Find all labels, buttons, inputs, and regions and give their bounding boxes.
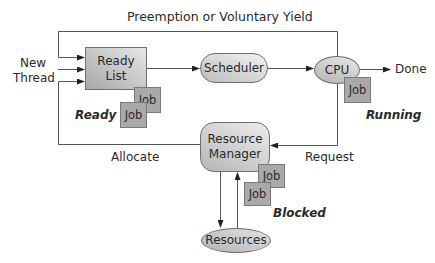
request-label: Request bbox=[305, 150, 354, 164]
thread-state-diagram: Preemption or Voluntary Yield New Thread… bbox=[0, 0, 435, 263]
resource-manager-label-line2: Manager bbox=[207, 147, 262, 162]
blocked-state-label: Blocked bbox=[273, 206, 326, 220]
done-label: Done bbox=[395, 62, 427, 76]
ready-list-label-line2: List bbox=[97, 69, 134, 84]
ready-list-node: Ready List bbox=[85, 47, 147, 90]
ready-state-label: Ready bbox=[75, 108, 116, 122]
running-state-label: Running bbox=[366, 108, 421, 122]
request-arrow bbox=[271, 84, 338, 146]
ready-job-2: Job bbox=[120, 102, 147, 128]
preemption-label: Preemption or Voluntary Yield bbox=[127, 10, 313, 24]
allocate-label: Allocate bbox=[111, 150, 159, 164]
resource-manager-label-line1: Resource bbox=[207, 132, 262, 147]
scheduler-node: Scheduler bbox=[200, 53, 268, 83]
blocked-job-2: Job bbox=[244, 182, 271, 206]
new-thread-label-line1: New bbox=[20, 56, 46, 70]
resources-node: Resources bbox=[201, 228, 271, 253]
cpu-job: Job bbox=[344, 77, 371, 103]
new-thread-label-line2: Thread bbox=[13, 71, 55, 85]
ready-list-label-line1: Ready bbox=[97, 54, 134, 69]
